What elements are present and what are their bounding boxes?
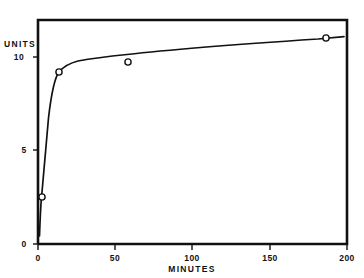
- x-tick-label-150: 150: [262, 253, 277, 263]
- data-point-marker: [56, 69, 62, 75]
- y-tick-label-10: 10: [14, 52, 24, 62]
- data-curve: [40, 37, 345, 236]
- chart-canvas: UNITS 10 5 0 0 50 100 150 200 MINUTES: [0, 0, 364, 278]
- x-tick-label-50: 50: [110, 253, 120, 263]
- data-point-marker: [323, 35, 329, 41]
- plot-frame: [38, 20, 347, 244]
- chart-figure: UNITS 10 5 0 0 50 100 150 200 MINUTES: [0, 0, 364, 278]
- x-tick-label-100: 100: [184, 253, 199, 263]
- data-point-marker: [125, 59, 131, 65]
- data-point-marker: [39, 194, 45, 200]
- y-tick-label-5: 5: [21, 145, 26, 155]
- y-axis-title: UNITS: [4, 39, 36, 49]
- y-tick-label-0: 0: [21, 239, 26, 249]
- x-axis-title: MINUTES: [168, 264, 215, 274]
- x-tick-label-200: 200: [339, 253, 354, 263]
- x-tick-label-0: 0: [35, 253, 40, 263]
